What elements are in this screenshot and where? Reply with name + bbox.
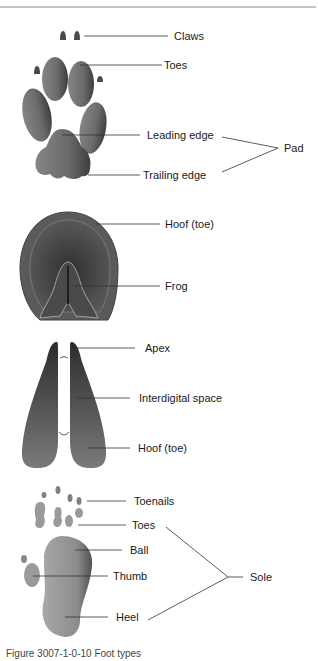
label-toenails: Toenails bbox=[134, 495, 175, 507]
toenail-shape bbox=[42, 492, 47, 498]
claw-shape bbox=[60, 31, 66, 40]
label-toes-foot: Toes bbox=[132, 519, 156, 531]
toe-shape bbox=[35, 502, 45, 528]
label-apex: Apex bbox=[145, 342, 171, 354]
label-toes: Toes bbox=[164, 59, 188, 71]
toe-pad bbox=[42, 57, 68, 101]
cloven-hoof-left bbox=[22, 342, 58, 468]
label-frog: Frog bbox=[165, 280, 188, 292]
label-claws: Claws bbox=[174, 30, 204, 42]
toe-shape bbox=[53, 507, 62, 527]
label-hoof-toe-cloven: Hoof (toe) bbox=[138, 442, 187, 454]
foot-illustration bbox=[21, 486, 92, 637]
claw-shape bbox=[97, 76, 103, 82]
thumb-shape bbox=[24, 563, 40, 587]
paw-illustration bbox=[18, 31, 111, 179]
foot-sole-shape bbox=[43, 536, 93, 637]
toe-shape bbox=[75, 508, 83, 518]
claw-shape bbox=[74, 31, 80, 40]
toenail-shape bbox=[68, 494, 73, 502]
thumb-nail-shape bbox=[21, 555, 27, 563]
label-leading-edge: Leading edge bbox=[147, 129, 214, 141]
label-sole: Sole bbox=[250, 571, 272, 583]
label-thumb: Thumb bbox=[113, 570, 147, 582]
interdigital-space bbox=[60, 357, 68, 359]
toenail-shape bbox=[56, 486, 61, 494]
label-ball: Ball bbox=[130, 544, 148, 556]
hoof-illustration bbox=[20, 212, 118, 320]
label-hoof-toe: Hoof (toe) bbox=[165, 218, 214, 230]
label-pad: Pad bbox=[284, 142, 304, 154]
toenail-shape bbox=[77, 497, 82, 505]
label-trailing-edge: Trailing edge bbox=[143, 169, 206, 181]
label-interdigital-space: Interdigital space bbox=[139, 392, 222, 404]
toe-shape bbox=[65, 515, 73, 527]
toe-pad bbox=[68, 61, 94, 107]
label-heel: Heel bbox=[116, 611, 139, 623]
claw-shape bbox=[34, 66, 40, 74]
figure-caption: Figure 3007-1-0-10 Foot types bbox=[6, 648, 141, 659]
cloven-hoof-right bbox=[70, 342, 106, 468]
cloven-hoof-illustration bbox=[22, 342, 106, 468]
